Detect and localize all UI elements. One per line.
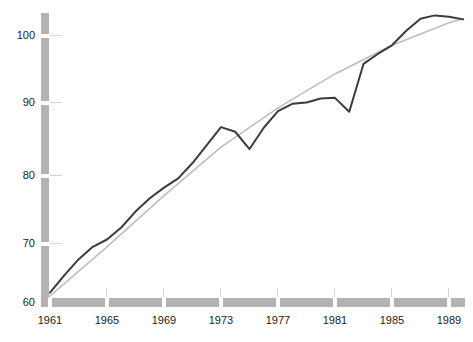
observed-line-series [50,15,463,292]
plot-area [0,0,473,342]
trend-line-series [50,19,463,296]
chart-container: 100 90 80 70 60 1961 1965 1969 1973 1977… [0,0,473,342]
